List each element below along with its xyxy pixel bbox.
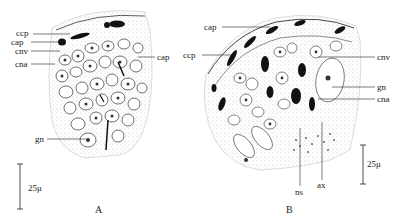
label-a-gn: gn [35, 135, 44, 144]
figure-drawing [0, 0, 402, 220]
panel-label-a: A [95, 205, 102, 215]
label-b-gn: gn [377, 83, 386, 92]
panel-a-tissue [49, 11, 152, 158]
panel-b-scale-bar [360, 145, 366, 184]
scale-label-b: 25μ [367, 160, 381, 169]
label-b-cnv: cnv [377, 53, 390, 62]
label-b-cna: cna [377, 95, 390, 104]
label-b-ccp: ccp [183, 51, 196, 60]
label-b-cap: cap [204, 23, 217, 32]
label-b-ns: ns [295, 188, 303, 197]
histology-figure: ccp cap cnv cna cap gn 25μ A cap ccp cnv… [0, 0, 402, 220]
label-a-cap-right: cap [157, 53, 170, 62]
panel-a-scale-bar [17, 164, 23, 209]
scale-label-a: 25μ [28, 184, 42, 193]
panel-b-tissue [204, 15, 361, 170]
label-b-ax: ax [317, 181, 326, 190]
panel-label-b: B [286, 205, 293, 215]
label-a-cnv: cnv [15, 47, 28, 56]
label-a-cna: cna [15, 60, 28, 69]
